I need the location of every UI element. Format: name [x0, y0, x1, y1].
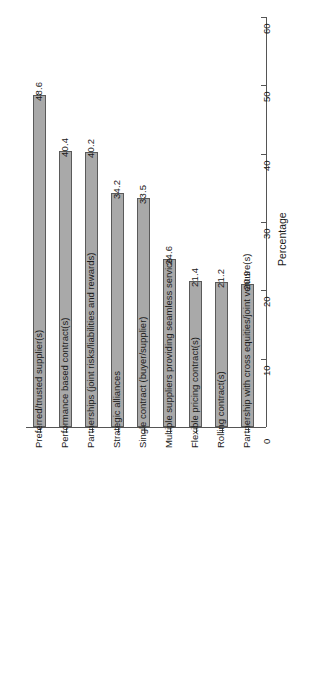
bar-value-label: 40.2	[85, 139, 96, 158]
category-label: Partnership with cross equities/joint ve…	[241, 254, 252, 448]
value-axis-tick	[261, 290, 266, 291]
category-label: Performance based contract(s)	[59, 318, 70, 448]
value-axis-tick	[261, 427, 266, 428]
value-axis-tick-label: 0	[261, 439, 272, 444]
value-axis-tick-label: 20	[261, 297, 272, 308]
bar-value-label: 33.5	[137, 185, 148, 204]
value-axis-tick-label: 50	[261, 92, 272, 103]
value-axis-tick-label: 10	[261, 365, 272, 376]
value-axis-tick-label: 60	[261, 23, 272, 34]
value-axis-tick	[261, 359, 266, 360]
category-label: Rolling contract(s)	[215, 371, 226, 448]
bar-value-label: 21.4	[189, 267, 200, 286]
bar-value-label: 34.2	[111, 180, 122, 199]
category-label: Flexible pricing contract(s)	[189, 337, 200, 448]
bar-value-label: 40.4	[59, 138, 70, 157]
value-axis-title: Percentage	[276, 212, 288, 266]
value-axis-tick	[261, 85, 266, 86]
value-axis-tick	[261, 154, 266, 155]
value-axis-tick	[261, 17, 266, 18]
value-axis-tick-label: 40	[261, 160, 272, 171]
bar-chart: 48.6 40.4 40.2 34.2 33.5 24.6 21.4 21.2 …	[0, 0, 310, 688]
category-label: Multiple suppliers providing seamless se…	[163, 258, 174, 448]
category-label: Single contract (buyer/supplier)	[137, 317, 148, 448]
value-axis-tick-label: 30	[261, 228, 272, 239]
category-label: Strategic alliances	[111, 371, 122, 448]
value-axis-tick	[261, 222, 266, 223]
bar-value-label: 48.6	[33, 82, 44, 101]
category-label: Partnerships (joint risks/liabilities an…	[85, 253, 96, 448]
category-label: Preferred/trusted supplier(s)	[33, 330, 44, 448]
bar-value-label: 21.2	[215, 269, 226, 288]
